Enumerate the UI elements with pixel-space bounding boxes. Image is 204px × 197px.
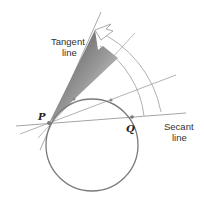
- point-p-marker: [47, 121, 51, 125]
- secant-line-2: [20, 75, 176, 134]
- tangent-label-line1: Tangent: [51, 36, 85, 47]
- circle: [46, 99, 138, 191]
- rotation-arc-outer: [95, 30, 161, 112]
- point-marker-2: [109, 98, 112, 101]
- point-marker-3: [72, 97, 75, 100]
- tangent-label-line2: line: [62, 47, 77, 58]
- secant-label-line2: line: [172, 132, 187, 143]
- point-q-label: Q: [126, 123, 135, 134]
- secant-label-line1: Secant: [164, 121, 194, 132]
- point-q-marker: [130, 115, 134, 119]
- point-p-label: P: [37, 111, 46, 122]
- secant-tangent-diagram: Tangent line Secant line P Q: [0, 0, 204, 197]
